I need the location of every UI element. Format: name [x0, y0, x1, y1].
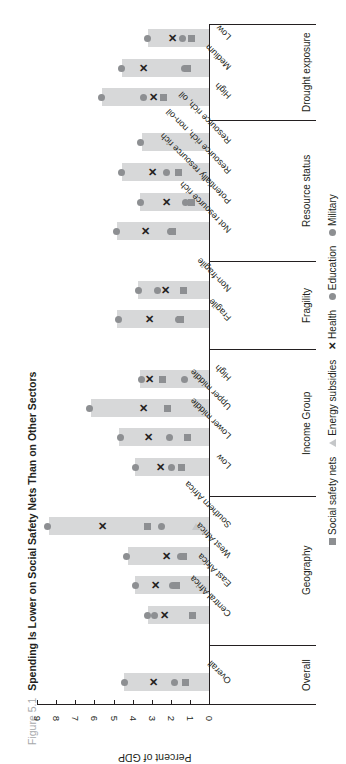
- education-marker: [167, 228, 174, 235]
- social-safety-nets-marker: [160, 94, 167, 101]
- triangle-icon: [329, 439, 336, 447]
- military-marker: [144, 612, 151, 619]
- military-marker: [115, 316, 122, 323]
- education-marker: [158, 523, 165, 530]
- tick-label: 2: [165, 713, 176, 725]
- legend-label: Health: [327, 310, 338, 339]
- legend-label: Social safety nets: [327, 457, 338, 535]
- military-marker: [137, 139, 144, 146]
- military-marker: [121, 679, 128, 686]
- group-separator: [209, 704, 316, 705]
- legend-label: Military: [327, 194, 338, 226]
- tick-mark: [37, 700, 38, 705]
- military-marker: [117, 434, 124, 441]
- bar: [117, 222, 209, 240]
- group-separator: [209, 645, 316, 646]
- category-label: Fragile: [207, 296, 234, 323]
- group-separator: [209, 120, 316, 121]
- tick-mark: [133, 700, 134, 705]
- social-safety-nets-marker: [175, 169, 182, 176]
- square-icon: [329, 538, 336, 545]
- military-marker: [98, 94, 105, 101]
- legend-label: Energy subsidies: [327, 360, 338, 436]
- tick-label: 0: [204, 713, 215, 725]
- group-separator: [209, 496, 316, 497]
- military-marker: [132, 582, 139, 589]
- legend: Social safety nets Energy subsidies ✕Hea…: [326, 194, 338, 545]
- health-marker: ✕: [145, 314, 155, 324]
- education-marker: [182, 199, 189, 206]
- education-marker: [168, 464, 175, 471]
- figure-title-text: Spending Is Lower on Social Safety Nets …: [26, 372, 38, 691]
- group-label: Income Group: [301, 391, 312, 454]
- military-marker: [137, 199, 144, 206]
- figure-title: Figure 5.1 Spending Is Lower on Social S…: [26, 372, 38, 745]
- military-marker: [123, 553, 130, 560]
- bar: [124, 673, 209, 691]
- circle-icon: [329, 229, 336, 236]
- health-marker: ✕: [149, 677, 159, 687]
- tick-label: 6: [89, 713, 100, 725]
- education-marker: [179, 35, 186, 42]
- group-label: Fragility: [301, 287, 312, 322]
- military-marker: [135, 287, 142, 294]
- health-marker: ✕: [159, 610, 169, 620]
- tick-mark: [94, 700, 95, 705]
- social-safety-nets-marker: [182, 679, 189, 686]
- health-marker: ✕: [148, 167, 158, 177]
- education-marker: [166, 434, 173, 441]
- tick-label: 5: [108, 713, 119, 725]
- category-label: Low: [214, 452, 233, 471]
- education-marker: [181, 376, 188, 383]
- health-marker: ✕: [168, 33, 178, 43]
- education-marker: [181, 65, 188, 72]
- military-marker: [86, 405, 93, 412]
- group-label: Drought exposure: [301, 32, 312, 112]
- category-label: Low: [214, 23, 233, 42]
- health-marker: ✕: [162, 551, 172, 561]
- health-marker: ✕: [138, 63, 148, 73]
- military-marker: [118, 169, 125, 176]
- bar: [122, 59, 209, 77]
- tick-mark: [56, 700, 57, 705]
- military-marker: [118, 65, 125, 72]
- tick-label: 3: [146, 713, 157, 725]
- education-marker: [151, 612, 158, 619]
- health-marker: ✕: [155, 462, 165, 472]
- education-marker: [169, 582, 176, 589]
- tick-mark: [114, 700, 115, 705]
- health-marker: ✕: [162, 197, 172, 207]
- education-marker: [140, 94, 147, 101]
- category-label: High: [213, 363, 233, 383]
- tick-mark: [75, 700, 76, 705]
- social-safety-nets-marker: [144, 523, 151, 530]
- group-separator: [209, 349, 316, 350]
- social-safety-nets-marker: [184, 434, 191, 441]
- tick-mark: [171, 700, 172, 705]
- health-marker: ✕: [145, 374, 155, 384]
- tick-label: 4: [127, 713, 138, 725]
- education-marker: [163, 169, 170, 176]
- tick-label: 8: [51, 713, 62, 725]
- group-separator: [209, 24, 316, 25]
- bar: [138, 281, 209, 299]
- x-icon: ✕: [327, 342, 338, 350]
- health-marker: ✕: [140, 226, 150, 236]
- social-safety-nets-marker: [188, 35, 195, 42]
- tick-mark: [152, 700, 153, 705]
- education-marker: [171, 679, 178, 686]
- social-safety-nets-marker: [178, 464, 185, 471]
- health-marker: ✕: [149, 92, 159, 102]
- y-axis-label: Percent of GDP: [118, 752, 192, 764]
- military-marker: [113, 228, 120, 235]
- category-label: High: [213, 81, 233, 101]
- axis-line: [37, 704, 209, 705]
- social-safety-nets-marker: [159, 376, 166, 383]
- social-safety-nets-marker: [189, 612, 196, 619]
- legend-label: Education: [327, 246, 338, 290]
- military-marker: [144, 35, 151, 42]
- tick-label: 1: [184, 713, 195, 725]
- health-marker: ✕: [151, 580, 161, 590]
- social-safety-nets-marker: [180, 287, 187, 294]
